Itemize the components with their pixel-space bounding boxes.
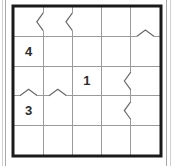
- cell-clue-value[interactable]: 1: [72, 66, 101, 96]
- cell-clue-value[interactable]: 3: [14, 96, 43, 126]
- cell-clue-value[interactable]: 4: [14, 37, 43, 67]
- page-edge-line: [166, 0, 167, 166]
- page-edge-line: [170, 0, 171, 166]
- page-edge-line: [2, 0, 3, 166]
- puzzle-page: 413: [0, 0, 173, 166]
- page-edge-line: [5, 0, 6, 166]
- puzzle-grid[interactable]: 413: [11, 4, 163, 158]
